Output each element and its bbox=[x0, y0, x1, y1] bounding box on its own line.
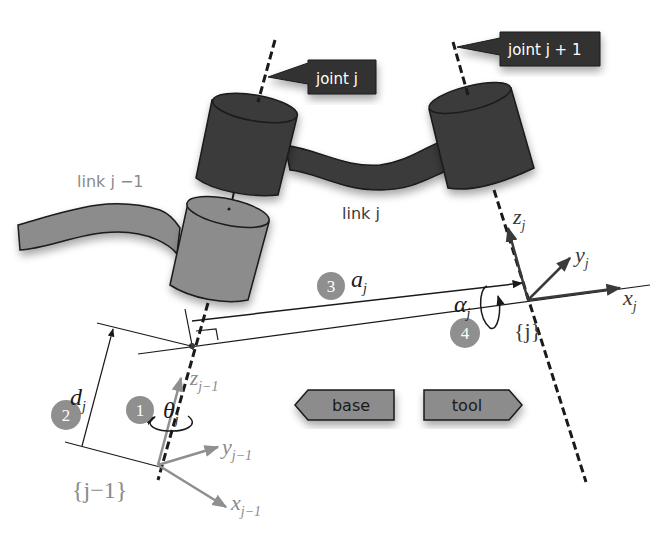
step-4-number: 4 bbox=[461, 324, 470, 343]
x-j-axis-label: xj bbox=[622, 285, 637, 314]
frame-j-label: {j} bbox=[514, 318, 541, 343]
callout-joint-j-label: joint j bbox=[315, 70, 358, 88]
link-offset-dimension bbox=[65, 323, 191, 467]
joint-j-cylinder bbox=[196, 88, 300, 196]
step-3-number: 3 bbox=[327, 277, 336, 296]
y-j-axis-label: yj bbox=[573, 242, 589, 271]
alpha-j-label: αj bbox=[454, 291, 471, 321]
link-j-label: link j bbox=[342, 204, 380, 223]
z-j-axis-label: zj bbox=[512, 204, 526, 233]
link-j-minus-1-label: link j −1 bbox=[77, 172, 144, 191]
step-2-number: 2 bbox=[62, 406, 71, 425]
frame-j-axes bbox=[508, 228, 620, 300]
link-j-body bbox=[285, 142, 448, 190]
base-direction-label: base bbox=[332, 396, 370, 415]
a-j-label: aj bbox=[351, 266, 367, 296]
callout-joint-j-plus-1-label: joint j + 1 bbox=[507, 41, 581, 59]
step-1-number: 1 bbox=[136, 401, 145, 420]
y-j-minus-1-axis-label: yj−1 bbox=[220, 434, 252, 463]
frame-j-minus-1-label: {j−1} bbox=[72, 477, 127, 503]
d-j-label: dj bbox=[70, 384, 86, 414]
tool-direction-label: tool bbox=[452, 396, 482, 415]
link-j-minus-1-body bbox=[18, 204, 180, 254]
dh-parameter-diagram: joint j joint j + 1 link j −1 link j zj … bbox=[0, 0, 664, 536]
joint-j-lower-cylinder bbox=[170, 191, 272, 302]
z-j-minus-1-axis-label: zj−1 bbox=[189, 366, 219, 394]
x-j-minus-1-axis-label: xj−1 bbox=[230, 490, 261, 519]
theta-j-label: θj bbox=[163, 397, 179, 427]
